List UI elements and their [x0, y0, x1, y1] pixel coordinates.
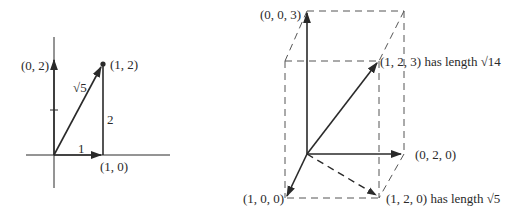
- label-point-0-0-3: (0, 0, 3): [260, 8, 301, 21]
- label-hypotenuse: √5: [73, 81, 87, 94]
- label-point-1-2-3: (1, 2, 3) has length √14: [380, 55, 501, 68]
- label-point-0-2: (0, 2): [21, 59, 49, 72]
- vector-1-0-0: [287, 154, 307, 196]
- label-side-vertical: 2: [107, 113, 114, 126]
- label-point-0-2-0: (0, 2, 0): [415, 148, 456, 161]
- label-side-horizontal: 1: [78, 142, 85, 155]
- vector-length-diagram: [0, 0, 515, 216]
- label-point-1-0-0: (1, 0, 0): [243, 192, 284, 205]
- label-point-1-0: (1, 0): [100, 160, 128, 173]
- label-point-1-2-0: (1, 2, 0) has length √5: [386, 192, 500, 205]
- figure-3d-solid: [287, 13, 401, 196]
- vector-1-2-3: [307, 63, 377, 154]
- label-point-1-2: (1, 2): [110, 58, 138, 71]
- vector-1-2-0: [307, 154, 376, 195]
- point-1-2-dot: [100, 61, 105, 66]
